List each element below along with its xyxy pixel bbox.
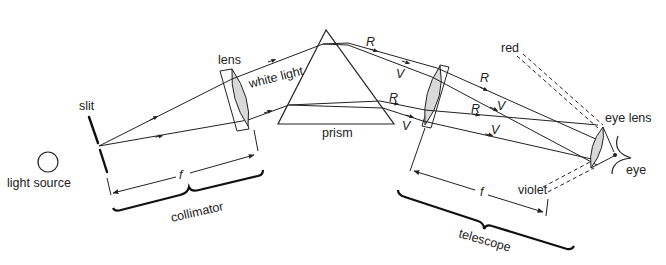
eye-lens <box>591 127 615 168</box>
eye-lens-label: eye lens <box>605 111 652 125</box>
collimator-focal-dimension <box>107 130 258 195</box>
ray-label-V1: V <box>396 67 406 81</box>
ray-V-upper <box>432 77 597 165</box>
ray-slit-upper <box>99 79 232 146</box>
ray-white-lower <box>248 105 289 120</box>
ray-slit-lower <box>99 120 248 146</box>
red-label: red <box>501 41 519 55</box>
red-dashed-line <box>517 56 598 128</box>
prism-label: prism <box>322 126 353 140</box>
light-source-icon <box>38 152 58 172</box>
collimator-label: collimator <box>170 199 225 225</box>
ray-label-V4: V <box>491 123 501 137</box>
collimator-brace <box>113 170 263 211</box>
ray-label-R3: R <box>480 71 489 85</box>
telescope-focal-label: f <box>480 185 485 199</box>
ray-label-R4: R <box>471 102 480 116</box>
violet-dashed-line <box>543 162 590 187</box>
lens-label: lens <box>218 53 241 67</box>
light-source-label: light source <box>7 176 71 190</box>
spectroscope-diagram: light source slit lens white light prism… <box>0 0 666 265</box>
slit <box>89 117 107 172</box>
ray-label-R1: R <box>366 35 375 49</box>
collimator-focal-label: f <box>179 168 184 182</box>
ray-V-lower <box>423 121 596 160</box>
ray-label-V2: V <box>402 119 412 133</box>
eye-label: eye <box>626 163 646 177</box>
ray-R-lower <box>425 110 598 125</box>
ray-label-R2: R <box>389 91 398 105</box>
telescope-focal-dimension <box>410 128 548 216</box>
ray-label-V3: V <box>497 99 507 113</box>
slit-label: slit <box>79 99 95 113</box>
violet-label: violet <box>518 183 548 197</box>
